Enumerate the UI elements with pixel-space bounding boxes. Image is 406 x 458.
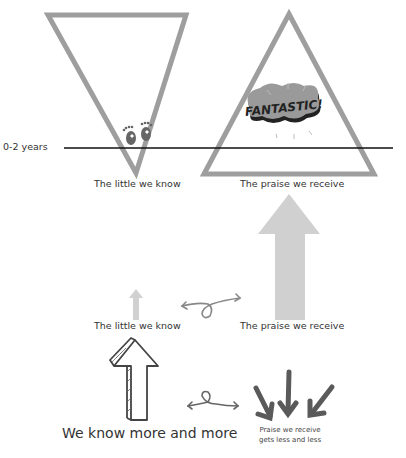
- loop-double-arrow-icon: [182, 294, 240, 318]
- bottom-right-label-line2: gets less and less: [254, 435, 326, 445]
- bottom-left-label: We know more and more: [62, 425, 237, 441]
- knowledge-triangle: [48, 15, 186, 173]
- diagram-canvas: FANTASTIC!: [0, 0, 406, 458]
- right-triangle-label: The praise we receive: [240, 178, 344, 189]
- middle-left-label: The little we know: [94, 320, 181, 331]
- sketchy-up-arrow: [110, 338, 158, 420]
- fantastic-badge-icon: FANTASTIC!: [244, 83, 323, 139]
- down-arrows-icon: [256, 372, 332, 418]
- small-up-arrow: [129, 289, 143, 320]
- bottom-loop-double-arrow-icon: [188, 392, 238, 410]
- left-triangle-label: The little we know: [94, 178, 181, 189]
- middle-right-label: The praise we receive: [240, 320, 344, 331]
- big-up-arrow: [258, 194, 320, 320]
- bottom-right-label-line1: Praise we receive: [254, 425, 326, 435]
- timeline-label: 0-2 years: [3, 141, 48, 152]
- bottom-right-label: Praise we receive gets less and less: [254, 425, 326, 445]
